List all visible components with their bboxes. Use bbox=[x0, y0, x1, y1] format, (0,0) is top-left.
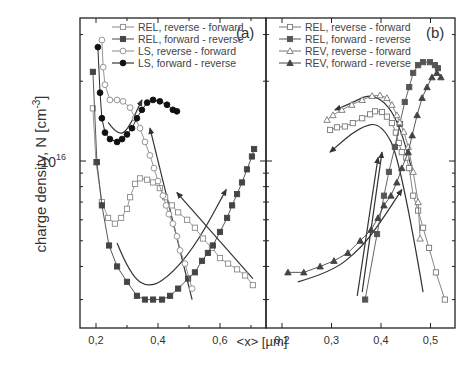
data-point-square bbox=[142, 297, 147, 302]
data-point-triangle bbox=[394, 179, 400, 185]
data-point-square bbox=[244, 167, 249, 172]
data-point-square bbox=[192, 270, 197, 275]
x-tick-label: 0,4 bbox=[373, 334, 388, 346]
y-axis-label: charge density, N [cm-3] bbox=[31, 95, 49, 252]
data-point-square bbox=[99, 203, 104, 208]
legend-marker-square bbox=[120, 36, 125, 41]
data-point-triangle bbox=[381, 202, 387, 208]
data-point-square bbox=[249, 154, 254, 159]
data-point-triangle bbox=[359, 97, 365, 103]
data-point-circle bbox=[151, 165, 157, 171]
data-point-square bbox=[145, 177, 150, 182]
chart: charge density, N [cm-3] 1016 0,20,40,6 … bbox=[0, 0, 474, 369]
data-point-triangle bbox=[388, 192, 394, 198]
data-point-triangle bbox=[331, 258, 337, 264]
legend-label: REV, reverse - forward bbox=[305, 45, 411, 57]
data-point-circle bbox=[166, 211, 172, 217]
data-point-circle bbox=[119, 136, 125, 142]
data-point-square bbox=[374, 231, 379, 236]
data-point-square bbox=[420, 60, 425, 65]
data-point-square bbox=[239, 180, 244, 185]
legend-panel-b: REL, reverse - forwardREL, forward - rev… bbox=[279, 21, 411, 69]
y-axis-label-close: ] bbox=[32, 95, 49, 99]
x-tick-label: 0,5 bbox=[423, 334, 438, 346]
data-point-square bbox=[342, 124, 347, 129]
data-point-square bbox=[250, 283, 255, 288]
data-point-square bbox=[384, 114, 389, 119]
data-point-triangle bbox=[384, 95, 390, 101]
data-point-circle bbox=[174, 233, 180, 239]
series-line bbox=[93, 108, 253, 285]
data-point-triangle bbox=[424, 84, 430, 90]
data-point-circle bbox=[182, 261, 188, 267]
data-point-square bbox=[217, 256, 222, 261]
data-point-square bbox=[94, 160, 99, 165]
data-point-circle bbox=[120, 98, 126, 104]
data-point-circle bbox=[134, 115, 140, 121]
data-point-square bbox=[119, 215, 124, 220]
data-point-circle bbox=[144, 100, 150, 106]
data-point-circle bbox=[164, 102, 170, 108]
data-point-circle bbox=[97, 90, 103, 96]
data-point-circle bbox=[129, 125, 135, 131]
x-tick-label: 0,2 bbox=[88, 334, 103, 346]
data-point-square bbox=[132, 181, 137, 186]
data-point-circle bbox=[150, 97, 156, 103]
arrow bbox=[298, 190, 402, 282]
arrow bbox=[357, 158, 378, 296]
legend-label: REV, forward - reverse bbox=[305, 57, 411, 69]
data-point-circle bbox=[102, 130, 108, 136]
data-point-square bbox=[360, 116, 365, 121]
data-point-square bbox=[112, 221, 117, 226]
y-tick-label: 1016 bbox=[40, 152, 66, 170]
x-tick-label: 0,6 bbox=[212, 334, 227, 346]
series-open-circle bbox=[99, 37, 195, 291]
data-point-square bbox=[407, 85, 412, 90]
data-point-circle bbox=[155, 178, 161, 184]
y-axis-label-main: charge density, N [cm bbox=[32, 109, 49, 253]
data-point-circle bbox=[127, 105, 133, 111]
legend-marker-square bbox=[287, 24, 292, 29]
data-point-square bbox=[210, 243, 215, 248]
data-point-triangle bbox=[419, 95, 425, 101]
data-point-square bbox=[433, 270, 438, 275]
data-point-square bbox=[243, 273, 248, 278]
data-point-square bbox=[234, 267, 239, 272]
data-point-square bbox=[159, 297, 164, 302]
y-tick-label-base: 10 bbox=[40, 154, 56, 170]
data-point-square bbox=[128, 195, 133, 200]
x-tick-label: 0,3 bbox=[324, 334, 339, 346]
series-line bbox=[330, 111, 445, 299]
data-point-square bbox=[381, 193, 386, 198]
data-point-circle bbox=[99, 37, 105, 43]
legend-label: REL, reverse - forward bbox=[138, 21, 244, 33]
data-point-triangle bbox=[317, 263, 323, 269]
data-point-circle bbox=[102, 82, 108, 88]
data-point-square bbox=[386, 169, 391, 174]
series-open-square bbox=[327, 109, 447, 302]
x-tick-label: 0,4 bbox=[150, 334, 165, 346]
data-point-square bbox=[402, 99, 407, 104]
legend-marker-circle bbox=[120, 60, 126, 66]
data-point-triangle bbox=[377, 92, 383, 98]
data-point-triangle bbox=[401, 128, 407, 134]
data-point-circle bbox=[107, 136, 113, 142]
legend-label: LS, forward - reverse bbox=[138, 57, 236, 69]
data-point-square bbox=[426, 245, 431, 250]
data-point-circle bbox=[139, 107, 145, 113]
data-point-triangle bbox=[415, 199, 421, 205]
data-point-triangle bbox=[330, 112, 336, 118]
data-point-circle bbox=[147, 152, 153, 158]
data-point-circle bbox=[177, 247, 183, 253]
data-point-circle bbox=[170, 221, 176, 227]
series-filled-square bbox=[90, 69, 256, 302]
data-point-square bbox=[106, 243, 111, 248]
data-point-circle bbox=[114, 97, 120, 103]
data-point-circle bbox=[137, 125, 143, 131]
data-point-triangle bbox=[368, 227, 374, 233]
series-line bbox=[327, 95, 420, 238]
data-point-square bbox=[205, 250, 210, 255]
data-point-square bbox=[169, 203, 174, 208]
data-point-square bbox=[176, 210, 181, 215]
data-point-square bbox=[105, 215, 110, 220]
